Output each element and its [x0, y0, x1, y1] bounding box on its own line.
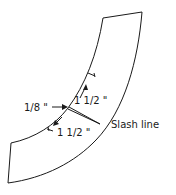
slash-line-label: Slash line — [111, 119, 159, 130]
slash-line-lower — [68, 109, 100, 124]
upper-notch-mark — [88, 73, 95, 77]
lower-measure-label: 1 1/2 " — [57, 127, 90, 138]
seam-allowance-arrow-icon — [52, 104, 68, 110]
lower-notch-mark — [47, 127, 53, 131]
seam-allowance-label: 1/8 " — [24, 102, 48, 113]
upper-measure-label: 1 1/2 " — [74, 95, 107, 106]
lower-arrow-icon — [53, 117, 62, 126]
pattern-diagram: 1/8 " 1 1/2 " 1 1/2 " Slash line — [0, 0, 176, 195]
